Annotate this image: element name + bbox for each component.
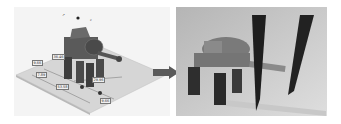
dimension-label: 53.58 — [56, 84, 69, 90]
dimension-label: 9.66 — [32, 60, 43, 66]
photo-panel — [176, 7, 327, 116]
robot-photo-illustration — [176, 7, 327, 116]
cad-render-panel: ↗ z 36.46 9.66 7.89 53.58 29.96 9.66 — [14, 7, 170, 116]
svg-text:↗: ↗ — [62, 13, 65, 17]
dimension-label: 29.96 — [92, 77, 105, 83]
dimension-label: 7.89 — [36, 72, 47, 78]
dimension-label: 36.46 — [52, 54, 65, 60]
svg-text:z: z — [90, 18, 92, 22]
dimension-label: 9.66 — [100, 98, 111, 104]
